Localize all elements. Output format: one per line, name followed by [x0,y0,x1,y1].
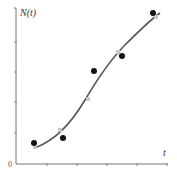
data-point [150,10,156,16]
y-axis-label: N(t) [19,7,37,19]
data-point [91,68,97,74]
x-axis-label: t [163,147,166,158]
chart: N(t) t 0 [0,0,177,174]
data-point [31,140,37,146]
fitted-curve [35,13,160,148]
data-point [119,53,125,59]
observed-points [31,10,156,146]
data-point [60,135,66,141]
origin-label: 0 [8,160,12,169]
